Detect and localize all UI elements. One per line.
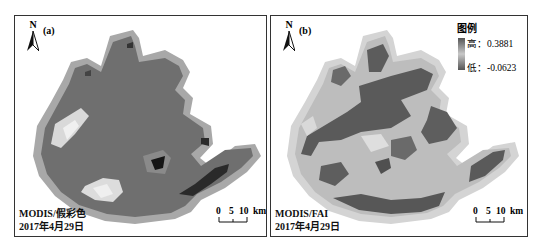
scale-tick-10: 10 [239, 206, 249, 216]
map-panel-false-color: N (a) MODIS/假彩色 2017年4月29日 0 5 10 km [14, 15, 267, 237]
north-arrow: N [281, 20, 297, 51]
north-arrow-icon [27, 31, 39, 51]
scale-bar-line [475, 217, 505, 223]
legend-title: 图例 [457, 23, 519, 35]
scale-tick-0: 0 [473, 206, 478, 216]
caption-false-color: MODIS/假彩色 2017年4月29日 [19, 207, 86, 233]
caption-fai: MODIS/FAI 2017年4月29日 [275, 207, 340, 233]
scale-bar: 0 5 10 km [475, 206, 511, 223]
lake-false-color-map [15, 16, 267, 237]
scale-unit: km [510, 206, 523, 216]
scale-tick-0: 0 [216, 206, 221, 216]
legend-low-label: 低：-0.0623 [467, 60, 516, 74]
map-panel-fai: N (b) 图例 高：0.3881 低：-0.0623 MODIS/FAI 20… [270, 15, 528, 237]
caption-source: MODIS/FAI [275, 207, 340, 220]
caption-date: 2017年4月29日 [19, 220, 86, 233]
legend-high-label: 高：0.3881 [467, 36, 513, 50]
north-label: N [281, 20, 297, 30]
panel-label-b: (b) [299, 25, 311, 36]
scale-tick-5: 5 [486, 206, 491, 216]
legend: 图例 高：0.3881 低：-0.0623 [457, 23, 519, 73]
north-arrow: N [25, 20, 41, 51]
panel-label-a: (a) [43, 25, 55, 36]
caption-source: MODIS/假彩色 [19, 207, 86, 220]
scale-tick-10: 10 [496, 206, 506, 216]
north-arrow-icon [283, 31, 295, 51]
legend-color-ramp [458, 38, 465, 70]
north-label: N [25, 20, 41, 30]
scale-tick-5: 5 [229, 206, 234, 216]
caption-date: 2017年4月29日 [275, 220, 340, 233]
scale-bar: 0 5 10 km [218, 206, 254, 223]
scale-bar-line [218, 217, 248, 223]
scale-unit: km [253, 206, 266, 216]
